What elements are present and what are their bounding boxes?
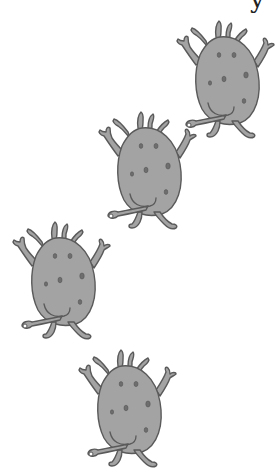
monster-illustration-icon: [94, 108, 200, 232]
partial-text-glyph: y: [250, 0, 265, 12]
monster-illustration-icon: [74, 346, 180, 470]
monster-illustration-icon: [8, 218, 114, 342]
monster-character: [74, 346, 180, 470]
monster-character: [94, 108, 200, 232]
monster-character: [8, 218, 114, 342]
